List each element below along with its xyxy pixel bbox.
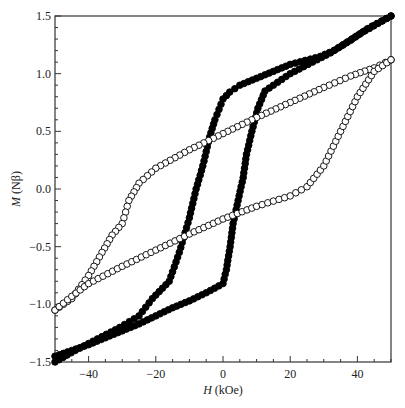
x-tick-label: 0 <box>220 367 226 381</box>
hysteresis-chart: −1.5−1.0−0.50.00.51.01.5 −40−2002040 M (… <box>0 0 405 408</box>
y-axis-ticks: −1.5−1.0−0.50.00.51.01.5 <box>29 9 61 369</box>
y-tick-label: 1.0 <box>36 67 51 81</box>
y-tick-label: 0.0 <box>36 182 51 196</box>
plot-frame <box>55 16 391 362</box>
y-tick-label: −1.0 <box>29 297 51 311</box>
x-axis-label: H (kOe) <box>202 383 243 397</box>
x-tick-label: −40 <box>79 367 98 381</box>
y-tick-label: −0.5 <box>29 240 51 254</box>
x-axis-ticks: −40−2002040 <box>55 356 391 381</box>
y-tick-label: 1.5 <box>36 9 51 23</box>
x-tick-label: 20 <box>284 367 296 381</box>
x-tick-label: 40 <box>351 367 363 381</box>
filled-circle-series <box>52 13 395 366</box>
x-tick-label: −20 <box>146 367 165 381</box>
y-axis-label: M (Nβ) <box>9 171 23 208</box>
y-tick-label: −1.5 <box>29 355 51 369</box>
data-series <box>52 13 395 366</box>
y-tick-label: 0.5 <box>36 124 51 138</box>
